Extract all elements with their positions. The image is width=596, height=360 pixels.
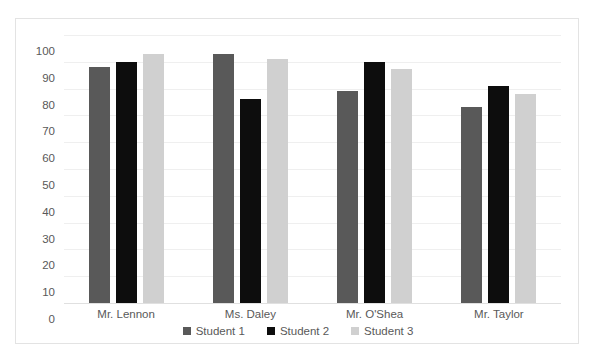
x-axis-label: Mr. O'Shea <box>313 307 437 321</box>
legend-item[interactable]: Student 1 <box>183 324 245 338</box>
y-tick-label-30: 30 <box>42 233 55 245</box>
clipped-chart-title <box>160 0 280 6</box>
bar-group <box>89 35 164 303</box>
bar <box>391 69 412 304</box>
y-tick-label-40: 40 <box>42 206 55 218</box>
gridline-0 <box>64 303 561 304</box>
bar <box>337 91 358 303</box>
legend-label: Student 3 <box>364 324 413 338</box>
x-axis-label: Mr. Taylor <box>437 307 561 321</box>
bar <box>240 99 261 303</box>
bar <box>515 94 536 303</box>
bar <box>213 54 234 303</box>
y-axis: 1009080706050403020100 <box>16 35 62 303</box>
chart-legend: Student 1Student 2Student 3 <box>16 321 580 341</box>
legend-item[interactable]: Student 3 <box>351 324 413 338</box>
legend-swatch-icon <box>267 327 275 335</box>
y-tick-label-80: 80 <box>42 99 55 111</box>
y-tick-label-100: 100 <box>36 45 55 57</box>
legend-label: Student 1 <box>196 324 245 338</box>
y-tick-label-20: 20 <box>42 259 55 271</box>
y-tick-label-90: 90 <box>42 72 55 84</box>
y-tick-label-60: 60 <box>42 152 55 164</box>
legend-swatch-icon <box>351 327 359 335</box>
y-tick-label-10: 10 <box>42 286 55 298</box>
bar <box>488 86 509 303</box>
bar <box>364 62 385 303</box>
x-axis-label: Mr. Lennon <box>64 307 188 321</box>
bar <box>116 62 137 303</box>
bars-layer <box>64 35 561 303</box>
bar-group <box>337 35 412 303</box>
y-tick-label-70: 70 <box>42 125 55 137</box>
bar-group <box>213 35 288 303</box>
bar-group <box>461 35 536 303</box>
legend-label: Student 2 <box>280 324 329 338</box>
bar <box>461 107 482 303</box>
bar <box>143 54 164 303</box>
y-tick-label-50: 50 <box>42 179 55 191</box>
legend-item[interactable]: Student 2 <box>267 324 329 338</box>
plot-area <box>64 35 561 303</box>
legend-swatch-icon <box>183 327 191 335</box>
bar <box>267 59 288 303</box>
bar <box>89 67 110 303</box>
x-axis-label: Ms. Daley <box>188 307 312 321</box>
chart-frame: 1009080706050403020100 Mr. LennonMs. Dal… <box>15 18 579 344</box>
